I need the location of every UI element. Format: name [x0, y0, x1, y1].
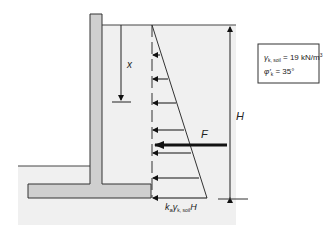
- friction-angle: φ′k = 35°: [264, 67, 294, 77]
- retaining-wall-diagram: x F H kaγk, soilH γk, soil = 19 kN/m3 φ′…: [0, 0, 336, 225]
- depth-label: x: [126, 59, 133, 70]
- properties-box: [258, 44, 319, 83]
- height-label: H: [236, 110, 244, 122]
